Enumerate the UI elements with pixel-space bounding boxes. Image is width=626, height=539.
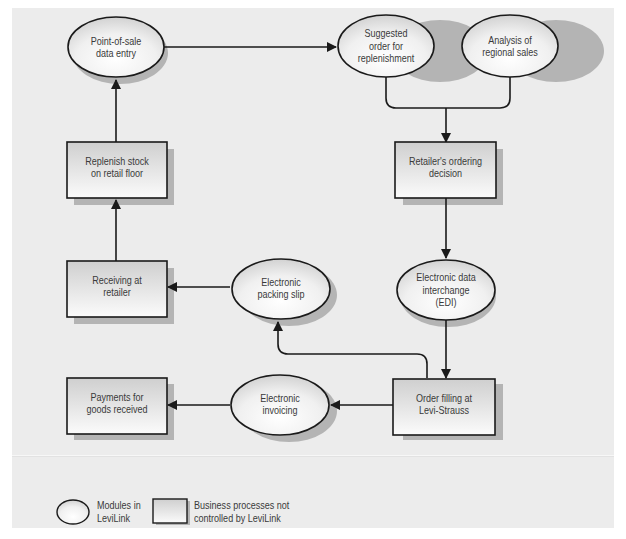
- label-line: Electronic: [260, 392, 300, 405]
- label-packing: Electronicpacking slip: [239, 269, 323, 307]
- label-line: invoicing: [260, 404, 300, 417]
- legend-rect: [153, 499, 187, 523]
- label-line: (EDI): [416, 296, 476, 309]
- label-line: Replenish stock: [85, 155, 149, 168]
- label-analysis: Analysis ofregional sales: [467, 26, 553, 66]
- label-line: Analysis of: [482, 34, 538, 47]
- legend-line: Business processes not: [194, 499, 289, 512]
- label-line: Retailer's ordering: [409, 155, 482, 168]
- label-line: retailer: [92, 286, 142, 299]
- label-line: decision: [409, 167, 482, 180]
- edge-merge-to-ordering: [386, 77, 510, 108]
- label-filling: Order filling atLevi-Strauss: [400, 379, 488, 429]
- label-payments: Payments forgoods received: [74, 378, 160, 428]
- legend-ellipse-label: Modules in LeviLink: [97, 499, 141, 524]
- label-line: Payments for: [86, 391, 147, 404]
- label-line: goods received: [86, 403, 147, 416]
- label-line: Electronic data: [416, 271, 476, 284]
- label-suggested: Suggestedorder forreplenishment: [343, 20, 429, 72]
- label-line: Order filling at: [416, 392, 472, 405]
- label-invoicing: Electronicinvoicing: [238, 385, 322, 423]
- label-line: regional sales: [482, 46, 538, 59]
- label-line: data entry: [91, 47, 142, 60]
- label-line: replenishment: [358, 52, 415, 65]
- label-edi: Electronic datainterchange(EDI): [404, 266, 488, 314]
- label-pos: Point-of-saledata entry: [75, 27, 158, 67]
- label-line: order for: [358, 40, 415, 53]
- legend-ellipse: [57, 500, 89, 524]
- label-line: Suggested: [358, 27, 415, 40]
- label-replenish: Replenish stockon retail floor: [74, 142, 160, 192]
- legend-line: Modules in: [97, 499, 141, 512]
- label-receiving: Receiving atretailer: [74, 261, 160, 311]
- label-line: interchange: [416, 284, 476, 297]
- label-line: packing slip: [257, 288, 304, 301]
- label-line: Electronic: [257, 276, 304, 289]
- legend-line: LeviLink: [97, 512, 141, 525]
- legend-line: controlled by LeviLink: [194, 512, 289, 525]
- label-line: Levi-Strauss: [416, 404, 472, 417]
- edges: [116, 47, 510, 405]
- label-line: Receiving at: [92, 274, 142, 287]
- edge-filling-to-packing: [278, 322, 427, 378]
- label-line: on retail floor: [85, 167, 149, 180]
- legend-rect-label: Business processes not controlled by Lev…: [194, 499, 289, 524]
- label-ordering: Retailer's orderingdecision: [402, 142, 489, 192]
- label-line: Point-of-sale: [91, 35, 142, 48]
